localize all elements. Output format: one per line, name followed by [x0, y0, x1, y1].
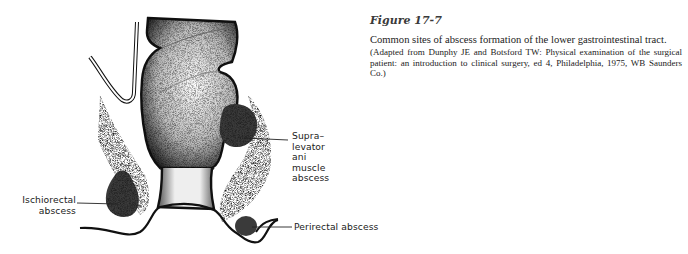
figure-description: Common sites of abscess formation of the…: [370, 34, 682, 46]
anorectal-illustration: Supra–levator ani muscle abscess Ischior…: [0, 0, 340, 254]
label-ischiorectal-line2: abscess: [0, 206, 76, 217]
label-supra-levator-line2: muscle abscess: [292, 163, 340, 184]
label-ischiorectal-line1: Ischiorectal: [0, 195, 76, 206]
figure-source: (Adapted from Dunphy JE and Botsford TW:…: [370, 47, 682, 79]
label-supra-levator: Supra–levator ani muscle abscess: [292, 131, 340, 184]
label-ischiorectal: Ischiorectal abscess: [0, 195, 76, 216]
figure-title: Figure 17-7: [370, 14, 682, 27]
figure-caption: Figure 17-7 Common sites of abscess form…: [370, 14, 682, 79]
label-supra-levator-line1: Supra–levator ani: [292, 131, 340, 163]
label-perirectal: Perirectal abscess: [294, 222, 379, 233]
